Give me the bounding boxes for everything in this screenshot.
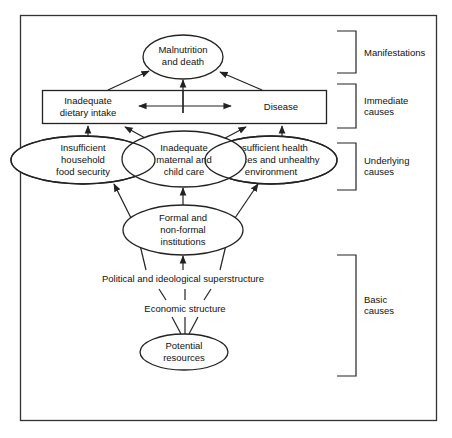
edges [88, 71, 282, 334]
node-formal-nonformal-institutions: Formal and non-formal institutions [123, 205, 243, 255]
node-label-line: maternal and [156, 154, 211, 165]
level-label: Immediate [364, 95, 408, 106]
node-label-line: non-formal [160, 224, 205, 235]
node-label-line: Economic structure [144, 303, 225, 314]
node-label-line: Inadequate [160, 142, 208, 153]
node-label-line: environment [245, 166, 298, 177]
level-label: Underlying [364, 155, 409, 166]
level-label: Manifestations [364, 47, 426, 58]
arrow-dietary-to-malnutrition [108, 71, 149, 90]
malnutrition-causes-diagram: Malnutrition and death Inadequate dietar… [0, 0, 452, 438]
node-label-line: Disease [264, 101, 298, 112]
node-political-ideological-superstructure: Political and ideological superstructure [102, 272, 268, 285]
node-label-line: household [61, 154, 105, 165]
bracket-basic-causes: Basic causes [337, 255, 394, 376]
line-economic-right [204, 289, 211, 300]
bracket-immediate-causes: Immediate causes [337, 84, 408, 128]
node-label-line: Political and ideological superstructure [102, 273, 264, 284]
level-label: causes [364, 305, 394, 316]
node-malnutrition-and-death: Malnutrition and death [143, 35, 223, 79]
node-label-line: resources [163, 352, 205, 363]
node-potential-resources: Potential resources [140, 334, 228, 370]
node-label-line: Inadequate [64, 95, 112, 106]
line-resources-left [172, 317, 181, 334]
node-label-line: food security [56, 166, 110, 177]
node-disease: Disease [264, 101, 298, 112]
line-resources-right [189, 317, 198, 334]
bracket-underlying-causes: Underlying causes [337, 143, 409, 190]
level-label: Basic [364, 294, 387, 305]
node-label-line: Insufficient [60, 142, 106, 153]
node-label-line: and death [162, 56, 204, 67]
node-label-line: child care [164, 166, 205, 177]
level-label: causes [364, 166, 394, 177]
node-label-line: Malnutrition [158, 44, 207, 55]
node-label-line: dietary intake [60, 107, 117, 118]
node-label-line: Formal and [159, 212, 207, 223]
node-label-line: institutions [161, 236, 206, 247]
node-economic-structure: Economic structure [142, 302, 228, 315]
level-label: causes [364, 106, 394, 117]
arrow-institutions-to-food-security [114, 184, 131, 218]
bracket-manifestations: Manifestations [337, 31, 426, 73]
arrow-institutions-to-health [235, 184, 258, 218]
node-inadequate-dietary-intake: Inadequate dietary intake [60, 95, 117, 118]
node-label-line: Insufficient health [234, 142, 308, 153]
node-label-line: Potential [166, 340, 203, 351]
line-economic-left [159, 289, 166, 300]
arrow-disease-to-malnutrition [220, 72, 262, 90]
